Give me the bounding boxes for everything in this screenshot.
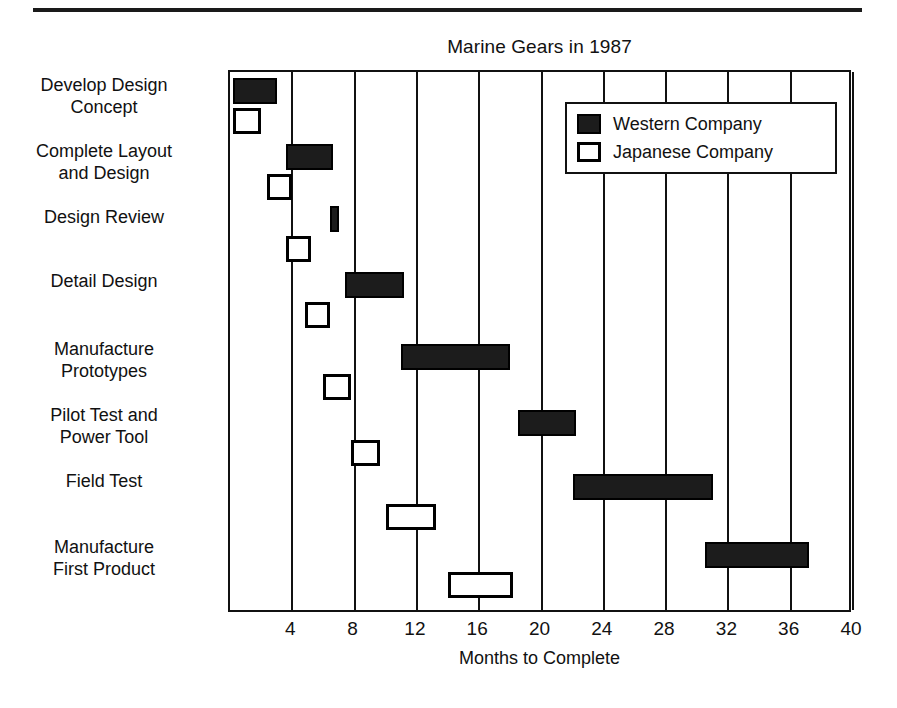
gantt-bar-western-4 [401,344,510,370]
gantt-bar-western-6 [573,474,713,500]
gantt-bar-japanese-1 [267,174,292,200]
x-tick-40: 40 [831,618,871,640]
task-label-5: Pilot Test and Power Tool [0,404,208,448]
gridline-month-40 [852,72,854,610]
gantt-bar-western-7 [705,542,809,568]
x-axis-tick-labels: 481216202428323640 [228,618,851,646]
chart-legend: Western Company Japanese Company [565,102,837,174]
gantt-bar-japanese-7 [448,572,513,598]
task-label-4: Manufacture Prototypes [0,338,208,382]
gantt-bar-western-5 [518,410,576,436]
x-tick-8: 8 [333,618,373,640]
x-tick-4: 4 [270,618,310,640]
task-label-column: Develop Design ConceptComplete Layout an… [0,70,218,612]
gantt-bar-western-1 [286,144,333,170]
task-label-3: Detail Design [0,270,208,292]
gantt-bar-japanese-0 [233,108,261,134]
x-tick-16: 16 [457,618,497,640]
task-label-1: Complete Layout and Design [0,140,208,184]
task-label-6: Field Test [0,470,208,492]
gantt-bar-western-3 [345,272,404,298]
gantt-bar-japanese-3 [305,302,330,328]
x-tick-20: 20 [520,618,560,640]
task-label-7: Manufacture First Product [0,536,208,580]
x-tick-28: 28 [644,618,684,640]
gantt-bar-japanese-5 [351,440,379,466]
legend-label-western: Western Company [613,114,762,135]
top-horizontal-rule [33,8,862,12]
legend-item-japanese: Japanese Company [577,138,827,166]
legend-label-japanese: Japanese Company [613,142,773,163]
x-tick-36: 36 [769,618,809,640]
legend-swatch-japanese-icon [577,142,601,162]
task-label-0: Develop Design Concept [0,74,208,118]
x-tick-12: 12 [395,618,435,640]
legend-swatch-western-icon [577,114,601,134]
gantt-bar-japanese-6 [386,504,436,530]
gantt-bar-western-2 [330,206,339,232]
gantt-bar-japanese-4 [323,374,351,400]
legend-item-western: Western Company [577,110,827,138]
x-tick-32: 32 [706,618,746,640]
x-axis-title: Months to Complete [228,648,851,669]
task-label-2: Design Review [0,206,208,228]
gantt-bar-western-0 [233,78,277,104]
gantt-bar-japanese-2 [286,236,311,262]
x-tick-24: 24 [582,618,622,640]
chart-title: Marine Gears in 1987 [228,36,851,58]
